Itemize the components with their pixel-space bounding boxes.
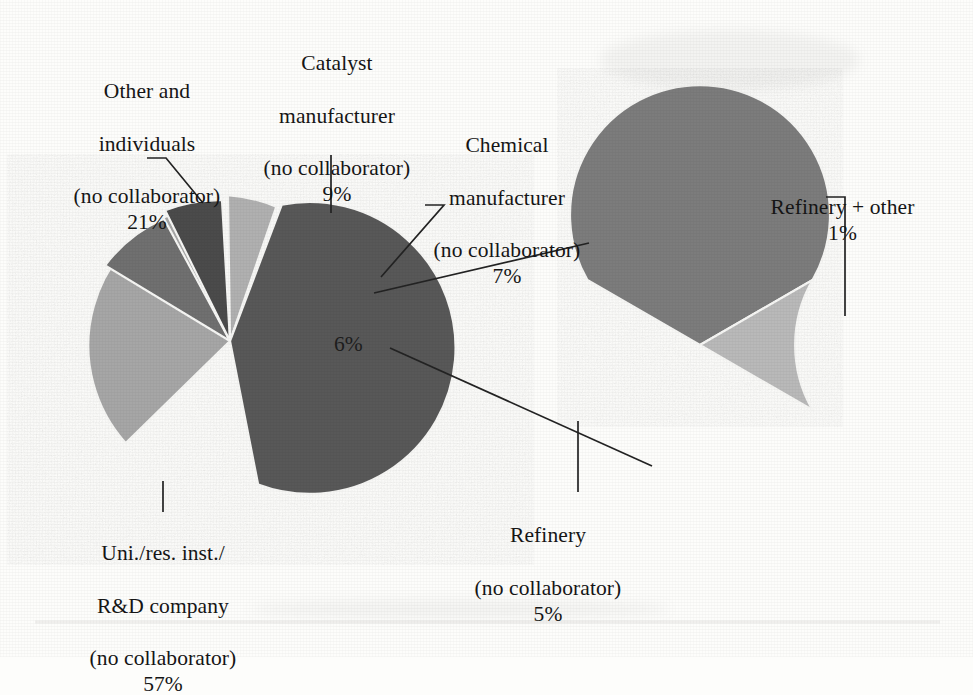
label-refinery-plus-other: Refinery + other 1%: [735, 168, 950, 273]
label-line-2: R&D company: [97, 594, 229, 618]
label-line-3: (no collaborator): [264, 156, 411, 180]
label-line-1: Other and: [104, 79, 190, 103]
label-refinery-group-percent: 6%: [334, 332, 363, 357]
label-line-3: (no collaborator): [434, 238, 581, 262]
label-line-3: (no collaborator): [90, 646, 237, 670]
label-percent: 57%: [48, 671, 278, 695]
label-line-1: Refinery + other: [771, 195, 915, 219]
label-line-2: manufacturer: [279, 104, 395, 128]
label-chemical-manufacturer: Chemical manufacturer (no collaborator) …: [392, 106, 622, 316]
label-percent: 5%: [433, 601, 663, 627]
label-line-1: Chemical: [465, 133, 548, 157]
label-percent: 7%: [392, 263, 622, 289]
label-uni-res-rd: Uni./res. inst./ R&D company (no collabo…: [48, 514, 278, 695]
label-line-1: Catalyst: [301, 51, 372, 75]
label-line-1: Refinery: [510, 523, 586, 547]
label-percent: 1%: [735, 220, 950, 246]
label-line-2: manufacturer: [449, 186, 565, 210]
label-line-2: individuals: [99, 132, 196, 156]
label-line-1: Uni./res. inst./: [101, 541, 224, 565]
label-line-3: (no collaborator): [74, 184, 221, 208]
label-refinery: Refinery (no collaborator) 5%: [433, 496, 663, 653]
label-line-2: (no collaborator): [475, 576, 622, 600]
